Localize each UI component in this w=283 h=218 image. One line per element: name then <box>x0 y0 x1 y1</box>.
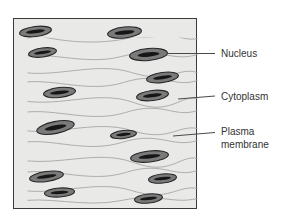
tissue-diagram-svg <box>0 0 283 218</box>
label-nucleus: Nucleus <box>221 47 281 60</box>
label-cytoplasm: Cytoplasm <box>221 90 281 103</box>
label-plasma-membrane: Plasma membrane <box>221 125 279 151</box>
diagram-canvas: Nucleus Cytoplasm Plasma membrane <box>0 0 283 218</box>
